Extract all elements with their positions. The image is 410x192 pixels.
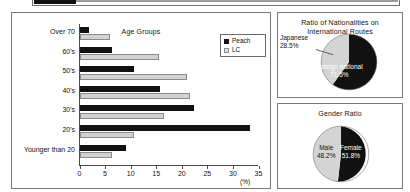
bar-lc-20-s: [80, 132, 134, 138]
x-tick-label-30: 30: [223, 170, 243, 177]
x-tick-label-20: 20: [172, 170, 192, 177]
female-slice-label: Female 51.8%: [340, 144, 362, 160]
legend-label-lc: LC: [232, 46, 240, 54]
nationality-pie-chart: [320, 33, 378, 91]
x-tick-25: [207, 166, 208, 169]
bar-lc-40-s: [80, 93, 191, 99]
x-tick-label-0: 0: [70, 170, 90, 177]
x-tick-10: [131, 166, 132, 169]
y-label-younger-than-20: Younger than 20: [24, 146, 75, 154]
foreign-national-slice-label: Foreign national 71.5%: [316, 63, 363, 79]
bar-lc-over-70: [80, 34, 111, 40]
top-cutoff-strip: [0, 0, 410, 10]
x-tick-20: [182, 166, 183, 169]
male-value-text: 48.2%: [317, 152, 335, 160]
y-label-20-s: 20's: [62, 126, 75, 134]
bar-peach-over-70: [80, 27, 89, 33]
chart-legend: Peach LC: [220, 34, 266, 57]
x-tick-label-5: 5: [95, 170, 115, 177]
x-tick-35: [259, 166, 260, 169]
y-label-over-70: Over 70: [50, 28, 75, 36]
top-strip-black-block: [34, 0, 76, 4]
male-slice-label: Male 48.2%: [317, 144, 335, 160]
gender-ratio-panel: Gender Ratio Male 48.2% Female 51.8%: [277, 103, 403, 189]
y-label-50-s: 50's: [62, 67, 75, 75]
japanese-slice-label: Japanese 28.5%: [280, 34, 308, 50]
bar-lc-30-s: [80, 113, 164, 119]
bar-peach-30-s: [80, 105, 195, 111]
bar-peach-younger-than-20: [80, 145, 127, 151]
age-groups-chart-panel: Age Groups 05101520253035 (%) Over 7060'…: [11, 12, 271, 189]
bar-lc-50-s: [80, 74, 187, 80]
y-label-40-s: 40's: [62, 87, 75, 95]
legend-label-peach: Peach: [232, 37, 250, 45]
x-tick-label-10: 10: [121, 170, 141, 177]
bar-peach-40-s: [80, 86, 160, 92]
top-strip-gray-bar: [76, 0, 398, 2]
female-label-text: Female: [340, 144, 362, 152]
x-axis-unit-label: (%): [240, 178, 250, 185]
y-label-30-s: 30's: [62, 106, 75, 114]
bar-peach-60-s: [80, 47, 112, 53]
bar-lc-60-s: [80, 54, 159, 60]
male-label-text: Male: [317, 144, 335, 152]
foreign-value-text: 71.5%: [316, 71, 363, 79]
x-tick-30: [233, 166, 234, 169]
x-tick-0: [80, 166, 81, 169]
x-tick-label-25: 25: [197, 170, 217, 177]
bar-lc-younger-than-20: [80, 152, 112, 158]
peach-swatch-icon: [224, 39, 229, 44]
x-tick-label-35: 35: [249, 170, 269, 177]
japanese-value-text: 28.5%: [280, 42, 308, 50]
japanese-label-text: Japanese: [280, 34, 308, 42]
lc-swatch-icon: [224, 48, 229, 53]
x-tick-15: [156, 166, 157, 169]
x-tick-label-15: 15: [146, 170, 166, 177]
x-tick-5: [105, 166, 106, 169]
bar-peach-50-s: [80, 66, 134, 72]
nationality-ratio-panel: Ratio of Nationalities on International …: [277, 12, 403, 98]
gender-title: Gender Ratio: [278, 109, 402, 118]
y-label-60-s: 60's: [62, 48, 75, 56]
legend-item-peach: Peach: [224, 37, 250, 45]
nationality-title-line1: Ratio of Nationalities on: [301, 19, 379, 26]
bar-peach-20-s: [80, 125, 251, 131]
foreign-label-text: Foreign national: [316, 63, 363, 71]
female-value-text: 51.8%: [340, 152, 362, 160]
legend-item-lc: LC: [224, 46, 240, 54]
